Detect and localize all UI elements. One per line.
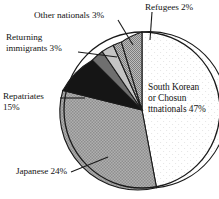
pie-label-returning-immigrants-line2: immigrants 3% xyxy=(6,43,62,53)
pie-label-repatriates-line1: Repatriates xyxy=(3,91,44,101)
pie-label-refugees: Refugees 2% xyxy=(145,2,193,12)
pie-label-repatriates-line2: 15% xyxy=(3,102,20,112)
pie-label-south-korean-line2: or Chosun xyxy=(148,93,186,104)
pie-label-south-korean-line1: South Korean xyxy=(148,82,199,93)
pie-label-japanese: Japanese 24% xyxy=(16,166,67,176)
pie-label-returning-immigrants-line1: Returning xyxy=(6,32,42,42)
pie-label-other-nationals: Other nationals 3% xyxy=(34,10,104,20)
pie-chart-figure: Refugees 2% Other nationals 3% Returning… xyxy=(0,0,219,199)
pie-label-south-korean-line3: ttnationals 47% xyxy=(148,104,206,115)
